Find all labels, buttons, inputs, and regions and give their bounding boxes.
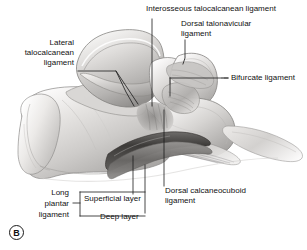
label-dorsal-talonavicular-line1: Dorsal talonavicular [181, 19, 251, 29]
label-bifurcate-ligament: Bifurcate ligament [231, 73, 295, 83]
label-deep-layer: Deep layer [100, 212, 139, 222]
label-dorsal-talonavicular-line2: ligament [181, 29, 211, 39]
label-long-plantar-line1: Long [18, 188, 69, 198]
label-superficial-layer: Superficial layer [84, 194, 141, 204]
anatomy-figure: Interosseous talocalcanean ligament Dors… [0, 0, 307, 250]
label-dorsal-calcaneocuboid-line1: Dorsal calcaneocuboid [165, 186, 246, 196]
label-interosseous-talocalcanean: Interosseous talocalcanean ligament [146, 4, 276, 14]
label-lateral-talocalcanean-line3: ligament [0, 58, 74, 68]
label-dorsal-calcaneocuboid-line2: ligament [165, 196, 195, 206]
panel-letter-badge: B [9, 225, 24, 240]
label-lateral-talocalcanean-line1: Lateral [0, 38, 74, 48]
label-lateral-talocalcanean-line2: talocalcanean [0, 48, 74, 58]
label-long-plantar-line2: plantar [18, 199, 69, 209]
label-long-plantar-line3: ligament [12, 210, 69, 220]
